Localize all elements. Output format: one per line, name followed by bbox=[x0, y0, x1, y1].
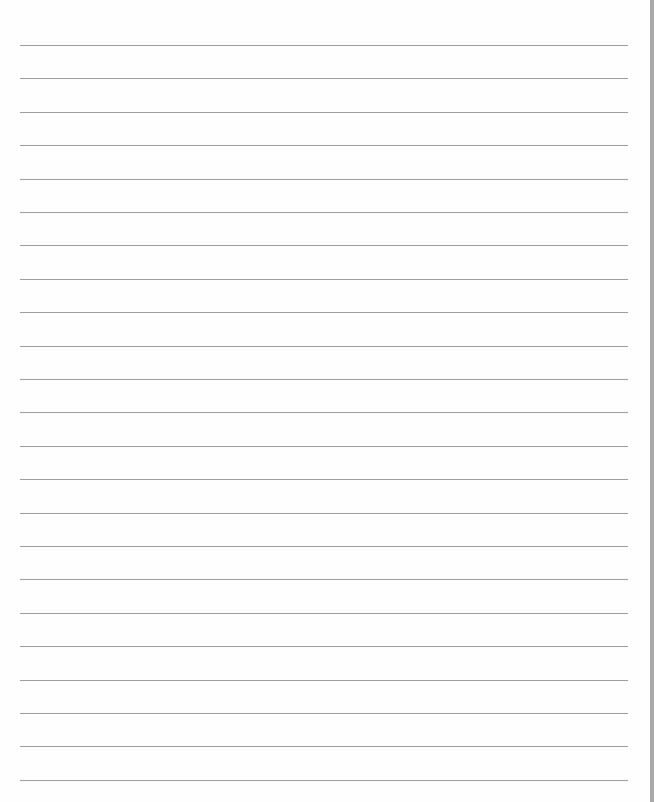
ruled-line bbox=[20, 78, 628, 79]
ruled-line bbox=[20, 379, 628, 380]
ruled-line bbox=[20, 746, 628, 747]
ruled-line bbox=[20, 346, 628, 347]
ruled-line bbox=[20, 179, 628, 180]
ruled-line bbox=[20, 713, 628, 714]
lined-paper-page bbox=[0, 0, 650, 802]
ruled-line bbox=[20, 613, 628, 614]
ruled-line bbox=[20, 479, 628, 480]
ruled-line bbox=[20, 579, 628, 580]
page-edge-strip bbox=[650, 0, 654, 802]
ruled-line bbox=[20, 446, 628, 447]
ruled-line bbox=[20, 112, 628, 113]
ruled-line bbox=[20, 279, 628, 280]
ruled-line bbox=[20, 546, 628, 547]
ruled-line bbox=[20, 412, 628, 413]
ruled-line bbox=[20, 513, 628, 514]
ruled-line bbox=[20, 312, 628, 313]
ruled-line bbox=[20, 145, 628, 146]
ruled-line bbox=[20, 780, 628, 781]
ruled-line bbox=[20, 646, 628, 647]
ruled-line bbox=[20, 212, 628, 213]
ruled-line bbox=[20, 45, 628, 46]
ruled-line bbox=[20, 245, 628, 246]
ruled-line bbox=[20, 680, 628, 681]
